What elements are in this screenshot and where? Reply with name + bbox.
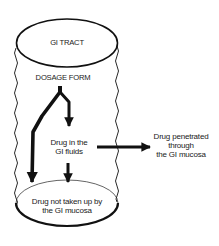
dosage-form-label: DOSAGE FORM: [22, 73, 104, 82]
arrow-dosage-to-not-taken-up: [32, 92, 60, 182]
drug-not-taken-up-label: Drug not taken up by the GI mucosa: [22, 197, 112, 215]
drug-penetrated-line3: the GI mucosa: [146, 150, 216, 159]
tube-right-wall: [116, 46, 119, 202]
arrow-dosage-to-fluids: [60, 92, 69, 126]
drug-penetrated-line2: through: [146, 141, 216, 150]
gi-tract-label: GI TRACT: [37, 38, 97, 47]
drug-not-taken-up-line2: the GI mucosa: [22, 206, 112, 215]
drug-in-fluids-label: Drug in the GI fluids: [44, 138, 94, 156]
drug-not-taken-up-line1: Drug not taken up by: [22, 197, 112, 206]
drug-in-fluids-line2: GI fluids: [44, 147, 94, 156]
drug-in-fluids-line1: Drug in the: [44, 138, 94, 147]
drug-penetrated-line1: Drug penetrated: [146, 132, 216, 141]
tube-left-wall: [15, 48, 18, 206]
drug-penetrated-label: Drug penetrated through the GI mucosa: [146, 132, 216, 159]
